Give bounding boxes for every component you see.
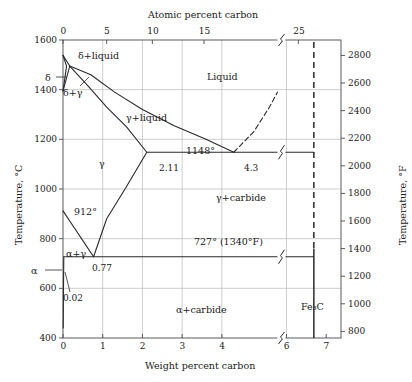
right-tick-label: 800 [348,327,365,336]
eutectoid-temp-label: 727° (1340°F) [194,237,263,247]
right-tick-label: 2600 [348,79,371,88]
bottom-tick-label: 6 [284,342,290,351]
top-axis-title: Atomic percent carbon [148,10,258,20]
top-tick-label: 5 [104,27,110,36]
top-tick-label: 25 [293,27,304,36]
gamma-alpha-temp-label: 912° [74,207,97,217]
region-label-gamma-plus-carbide: γ+carbide [216,193,266,203]
top-tick-label: 15 [199,27,210,36]
left-tick-label: 1200 [34,135,57,144]
top-tick-label: 10 [147,27,158,36]
right-axis-title: Temperature, °F [398,165,408,245]
bottom-tick-label: 2 [140,342,146,351]
eutectoid-carbon-label: 0.77 [92,264,112,273]
bottom-axis-title: Weight percent carbon [145,361,255,371]
bottom-tick-label: 0 [60,342,66,351]
phase-boundary-curves [63,42,314,338]
right-tick-label: 1200 [348,272,371,281]
bottom-tick-label: 3 [180,342,186,351]
right-tick-label: 1000 [348,300,371,309]
region-label-alpha-plus-carbide: α+carbide [176,305,227,315]
left-tick-label: 800 [39,235,56,244]
right-tick-label: 1600 [348,217,371,226]
bottom-tick-label: 4 [219,342,225,351]
left-tick-label: 600 [39,284,56,293]
region-label-gamma-plus-liquid: γ+liquid [126,113,167,123]
top-tick-label: 0 [60,27,66,36]
bottom-tick-label: 1 [100,342,106,351]
right-tick-label: 2000 [348,162,371,171]
bottom-tick-label: 7 [324,342,330,351]
eutectic-temp-label: 1148° [186,146,215,156]
phase-diagram-figure: Atomic percent carbon Weight percent car… [0,0,412,382]
left-tick-label: 1400 [34,86,57,95]
right-tick-label: 1800 [348,189,371,198]
right-tick-label: 2200 [348,134,371,143]
region-label-alpha-plus-gamma: α+γ [66,249,86,259]
region-label-delta-plus-gamma: δ+γ [63,88,82,98]
region-label-delta: δ [45,73,51,83]
region-label-alpha: α [31,266,37,276]
eutectic-carbon-label: 4.3 [244,164,258,173]
right-tick-label: 1400 [348,245,371,254]
austenite-max-carbon-label: 2.11 [159,164,179,173]
region-label-delta-plus-liquid: δ+liquid [78,51,119,61]
left-tick-label: 1600 [34,36,57,45]
region-label-cementite: Fe₃C [301,302,324,312]
region-label-liquid: Liquid [207,72,238,82]
region-label-gamma: γ [99,159,105,169]
right-tick-label: 2800 [348,51,371,60]
left-tick-label: 400 [39,334,56,343]
left-tick-label: 1000 [34,185,57,194]
left-axis-title: Temperature, °C [14,165,24,245]
ferrite-max-carbon-label: 0.02 [63,294,83,303]
right-tick-label: 2400 [348,107,371,116]
